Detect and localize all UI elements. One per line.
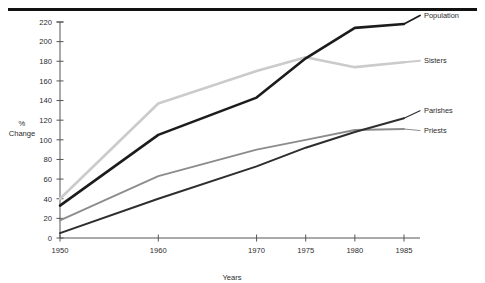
series-leader-priests bbox=[404, 129, 420, 131]
series-leader-parishes bbox=[404, 111, 420, 119]
y-tick-label: 60 bbox=[44, 175, 52, 184]
chart-figure: 0204060801001201401601802002201950196019… bbox=[0, 0, 485, 283]
x-tick-label: 1960 bbox=[150, 246, 167, 255]
y-tick-label: 220 bbox=[39, 18, 52, 27]
series-label-population: Population bbox=[424, 11, 459, 20]
x-tick-label: 1975 bbox=[297, 246, 314, 255]
x-tick-label: 1970 bbox=[248, 246, 265, 255]
y-tick-label: 100 bbox=[39, 136, 52, 145]
y-tick-label: 20 bbox=[44, 214, 52, 223]
y-tick-label: 160 bbox=[39, 77, 52, 86]
y-tick-label: 120 bbox=[39, 116, 52, 125]
y-tick-label: 40 bbox=[44, 195, 52, 204]
y-tick-label: 0 bbox=[48, 234, 52, 243]
x-axis-title: Years bbox=[222, 273, 241, 282]
y-axis-title: Change bbox=[9, 129, 36, 138]
series-label-priests: Priests bbox=[424, 126, 447, 135]
series-label-sisters: Sisters bbox=[424, 56, 447, 65]
series-leader-sisters bbox=[404, 61, 420, 63]
series-line-parishes bbox=[60, 118, 404, 233]
x-tick-label: 1985 bbox=[396, 246, 413, 255]
line-chart-plot: 0204060801001201401601802002201950196019… bbox=[0, 0, 485, 283]
series-leader-population bbox=[404, 15, 420, 24]
y-tick-label: 200 bbox=[39, 37, 52, 46]
x-tick-label: 1980 bbox=[346, 246, 363, 255]
y-tick-label: 140 bbox=[39, 96, 52, 105]
y-tick-label: 80 bbox=[44, 155, 52, 164]
y-axis-title: % bbox=[19, 119, 26, 128]
series-line-population bbox=[60, 24, 404, 206]
x-tick-label: 1950 bbox=[52, 246, 69, 255]
series-label-parishes: Parishes bbox=[424, 106, 453, 115]
series-line-sisters bbox=[60, 57, 404, 198]
y-tick-label: 180 bbox=[39, 57, 52, 66]
